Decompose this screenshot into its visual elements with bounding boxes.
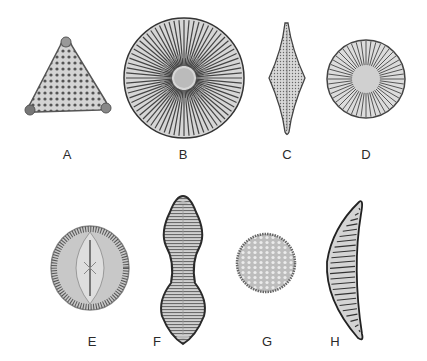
specimen-e <box>51 226 129 310</box>
specimen-f <box>161 196 205 344</box>
label-e: E <box>88 335 97 348</box>
label-a: A <box>63 148 72 161</box>
label-h: H <box>330 335 339 348</box>
specimen-c <box>269 23 305 135</box>
label-c: C <box>282 148 291 161</box>
specimen-d <box>327 40 405 118</box>
specimen-h <box>327 201 363 339</box>
label-f: F <box>153 335 161 348</box>
specimen-b <box>124 18 244 138</box>
specimen-g <box>237 234 295 292</box>
label-b: B <box>179 148 188 161</box>
diatom-plate: A B C D E F G H <box>0 0 427 361</box>
diatom-illustrations <box>0 0 427 361</box>
specimen-a <box>25 37 111 115</box>
label-d: D <box>361 148 370 161</box>
label-g: G <box>262 335 272 348</box>
